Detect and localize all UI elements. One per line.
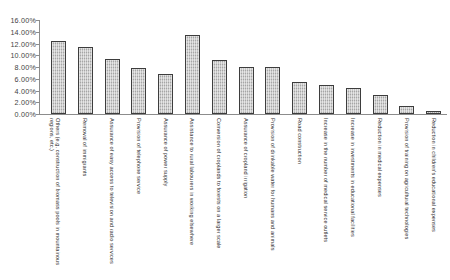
y-axis-tick-label: 4.00% <box>15 86 36 95</box>
bar <box>319 85 334 114</box>
y-axis-tick-label: 10.00% <box>10 51 36 60</box>
x-axis-category-label: Road construction <box>289 116 304 280</box>
x-axis-category-label: Assurance of power supply <box>155 116 170 280</box>
bar <box>292 82 307 114</box>
x-axis-category-label: Reduction in children's educational expe… <box>423 116 438 280</box>
x-axis-category-label: Others (e.g. construction of biomass poo… <box>47 116 62 280</box>
x-axis-category-text: Reduction in children's educational expe… <box>430 116 437 280</box>
x-axis-category-text: Provision of drinkable water for humans … <box>270 116 277 280</box>
x-axis-category-text: Assurance of easy access to television a… <box>109 116 116 280</box>
x-axis-category-label: Removal of immigrants <box>74 116 89 280</box>
plot-area <box>39 20 447 115</box>
x-axis-category-text: Removal of immigrants <box>82 116 89 280</box>
x-axis-category-label: Increase in the number of medical servic… <box>315 116 330 280</box>
bar <box>265 67 280 114</box>
x-axis: Others (e.g. construction of biomass poo… <box>39 116 447 280</box>
y-axis-tick-label: 12.00% <box>10 39 36 48</box>
bar <box>239 67 254 114</box>
x-axis-category-label: Reduction in medical expenses <box>369 116 384 280</box>
y-axis-tick-label: 8.00% <box>15 63 36 72</box>
x-axis-category-text: Assurance of cropland irrigation <box>243 116 250 280</box>
y-axis-tick-mark <box>36 20 39 21</box>
bar-chart: 16.00%14.00%12.00%10.00%8.00%6.00%4.00%2… <box>0 0 450 280</box>
x-axis-category-label: Assurance of easy access to television a… <box>101 116 116 280</box>
y-axis-tick-mark <box>36 55 39 56</box>
bar <box>78 47 93 114</box>
x-axis-category-text: Conversion of croplands to forests on a … <box>216 116 223 280</box>
y-axis-tick-label: 14.00% <box>10 27 36 36</box>
bar <box>346 88 361 114</box>
x-axis-category-text: Road construction <box>296 116 303 280</box>
y-axis-tick-mark <box>36 102 39 103</box>
x-axis-category-label: Assurance of cropland irrigation <box>235 116 250 280</box>
y-axis-tick-mark <box>36 67 39 68</box>
x-axis-category-label: Increase in investments in educational f… <box>342 116 357 280</box>
y-axis-tick-mark <box>36 114 39 115</box>
x-axis-category-label: Provision of telephone service <box>128 116 143 280</box>
bars-layer <box>39 20 447 115</box>
bar <box>426 111 441 114</box>
x-axis-category-text: Provision of telephone service <box>136 116 143 280</box>
y-axis-tick-mark <box>36 79 39 80</box>
x-axis-category-label: Provision of training on agricultural te… <box>396 116 411 280</box>
x-axis-category-text: Assurance of power supply <box>162 116 169 280</box>
x-axis-category-label: Conversion of croplands to forests on a … <box>208 116 223 280</box>
bar <box>212 60 227 114</box>
bar <box>185 35 200 114</box>
bar <box>399 106 414 114</box>
x-axis-category-label: Assistance to rural labourers in working… <box>181 116 196 280</box>
bar <box>131 68 146 114</box>
x-axis-category-text: Reduction in medical expenses <box>377 116 384 280</box>
x-axis-category-text: Provision of training on agricultural te… <box>404 116 411 280</box>
x-axis-category-text: Increase in investments in educational f… <box>350 116 357 280</box>
y-axis-tick-label: 0.00% <box>15 110 36 119</box>
bar <box>373 95 388 114</box>
bar <box>51 41 66 114</box>
y-axis-tick-label: 16.00% <box>10 16 36 25</box>
bar <box>158 74 173 114</box>
x-axis-category-text: Assistance to rural labourers in working… <box>189 116 196 280</box>
y-axis-tick-mark <box>36 44 39 45</box>
y-axis-tick-mark <box>36 32 39 33</box>
y-axis-tick-mark <box>36 91 39 92</box>
y-axis-tick-label: 2.00% <box>15 98 36 107</box>
x-axis-category-label: Provision of drinkable water for humans … <box>262 116 277 280</box>
bar <box>105 59 120 114</box>
y-axis: 16.00%14.00%12.00%10.00%8.00%6.00%4.00%2… <box>0 16 38 116</box>
y-axis-tick-label: 6.00% <box>15 74 36 83</box>
x-axis-category-text: Others (e.g. construction of biomass poo… <box>49 116 62 280</box>
x-axis-category-text: Increase in the number of medical servic… <box>323 116 330 280</box>
